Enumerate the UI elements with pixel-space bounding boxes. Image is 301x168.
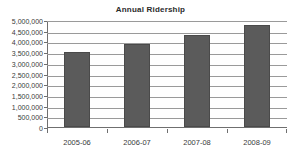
y-axis-tick-label: 4,500,000 [0, 28, 43, 35]
bar [244, 25, 270, 127]
y-axis-tick-label: 5,000,000 [0, 18, 43, 25]
bar [64, 52, 90, 127]
x-axis-tick-label: 2006-07 [107, 138, 167, 147]
y-axis-tick-label: 2,500,000 [0, 71, 43, 78]
y-axis-tick-label: 2,000,000 [0, 82, 43, 89]
x-axis-tick-mark [107, 129, 108, 133]
y-axis-tick-label: 0 [0, 125, 43, 132]
x-axis-tick-mark [227, 129, 228, 133]
x-axis-tick-labels: 2005-062006-072007-082008-09 [47, 138, 287, 152]
y-axis-tick-label: 1,000,000 [0, 103, 43, 110]
plot-area [47, 21, 287, 128]
x-axis-tick-label: 2007-08 [167, 138, 227, 147]
y-axis-tick-label: 500,000 [0, 114, 43, 121]
bar [124, 44, 150, 127]
y-axis-tick-label: 4,000,000 [0, 39, 43, 46]
x-axis-tick-mark [167, 129, 168, 133]
x-axis-tick-label: 2005-06 [47, 138, 107, 147]
chart-title: Annual Ridership [0, 5, 301, 14]
y-axis-tick-labels: 0500,0001,000,0001,500,0002,000,0002,500… [0, 21, 43, 129]
x-axis-tick-mark [47, 129, 48, 133]
bar [184, 35, 210, 127]
y-axis-tick-label: 3,500,000 [0, 50, 43, 57]
x-axis-tick-marks [47, 129, 287, 133]
bar-chart-figure: Annual Ridership 0500,0001,000,0001,500,… [0, 0, 301, 168]
x-axis-tick-mark [286, 129, 287, 133]
y-axis-tick-label: 3,000,000 [0, 60, 43, 67]
y-axis-tick-label: 1,500,000 [0, 92, 43, 99]
x-axis-tick-label: 2008-09 [227, 138, 287, 147]
